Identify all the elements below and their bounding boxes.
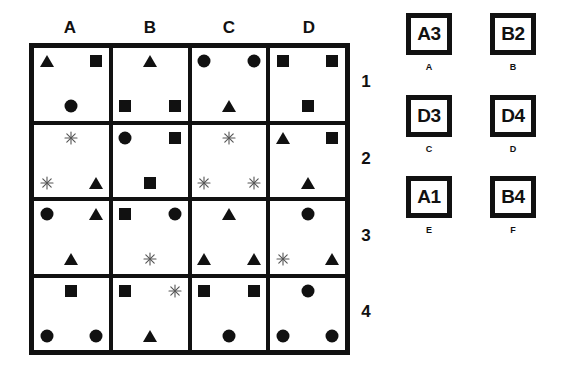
grid-cell-a1 xyxy=(34,48,109,121)
triangle-icon xyxy=(89,208,103,220)
triangle-icon xyxy=(222,208,236,220)
row-label-2: 2 xyxy=(356,149,376,169)
square-icon xyxy=(326,132,338,144)
option-letter: A xyxy=(398,62,460,72)
asterisk-icon xyxy=(168,284,182,298)
grid-cell-a4 xyxy=(34,278,109,351)
grid-cell-b1 xyxy=(113,48,188,121)
grid-cell-d4 xyxy=(270,278,345,351)
answer-option-a[interactable]: A3 A xyxy=(398,13,460,72)
square-icon xyxy=(119,208,131,220)
grid-cell-c4 xyxy=(192,278,267,351)
column-label-c: C xyxy=(209,18,249,38)
answer-option-b[interactable]: B2 B xyxy=(482,13,544,72)
circle-icon xyxy=(276,329,289,342)
asterisk-icon xyxy=(276,252,290,266)
asterisk-icon xyxy=(64,131,78,145)
grid-cell-c2 xyxy=(192,125,267,198)
column-label-d: D xyxy=(289,18,329,38)
grid-cell-a3 xyxy=(34,201,109,274)
puzzle-grid xyxy=(29,43,350,355)
option-code-box: B2 xyxy=(490,13,536,55)
row-label-3: 3 xyxy=(356,226,376,246)
triangle-icon xyxy=(64,253,78,265)
option-code-box: D4 xyxy=(490,95,536,137)
square-icon xyxy=(65,285,77,297)
triangle-icon xyxy=(325,253,339,265)
grid-cell-c1 xyxy=(192,48,267,121)
circle-icon xyxy=(40,329,53,342)
grid-cell-c3 xyxy=(192,201,267,274)
option-letter: B xyxy=(482,62,544,72)
column-label-a: A xyxy=(50,18,90,38)
circle-icon xyxy=(65,100,78,113)
grid-cell-b3 xyxy=(113,201,188,274)
row-label-1: 1 xyxy=(356,72,376,92)
grid-cell-d3 xyxy=(270,201,345,274)
grid-cell-b2 xyxy=(113,125,188,198)
square-icon xyxy=(302,100,314,112)
grid-cell-d2 xyxy=(270,125,345,198)
option-code-box: B4 xyxy=(490,176,536,218)
asterisk-icon xyxy=(222,131,236,145)
option-letter: E xyxy=(398,225,460,235)
square-icon xyxy=(169,100,181,112)
square-icon xyxy=(198,285,210,297)
square-icon xyxy=(119,285,131,297)
option-code-box: A1 xyxy=(406,176,452,218)
answer-option-c[interactable]: D3 C xyxy=(398,95,460,154)
answer-option-f[interactable]: B4 F xyxy=(482,176,544,235)
grid-cell-d1 xyxy=(270,48,345,121)
triangle-icon xyxy=(222,100,236,112)
square-icon xyxy=(144,177,156,189)
triangle-icon xyxy=(247,253,261,265)
square-icon xyxy=(90,55,102,67)
asterisk-icon xyxy=(40,176,54,190)
option-code-box: D3 xyxy=(406,95,452,137)
option-letter: C xyxy=(398,144,460,154)
grid-cell-b4 xyxy=(113,278,188,351)
square-icon xyxy=(248,285,260,297)
circle-icon xyxy=(301,284,314,297)
square-icon xyxy=(169,132,181,144)
option-letter: F xyxy=(482,225,544,235)
triangle-icon xyxy=(143,330,157,342)
triangle-icon xyxy=(143,55,157,67)
row-label-4: 4 xyxy=(356,302,376,322)
triangle-icon xyxy=(276,132,290,144)
answer-option-e[interactable]: A1 E xyxy=(398,176,460,235)
grid-cell-a2 xyxy=(34,125,109,198)
circle-icon xyxy=(247,55,260,68)
triangle-icon xyxy=(301,177,315,189)
option-code-box: A3 xyxy=(406,13,452,55)
circle-icon xyxy=(168,208,181,221)
circle-icon xyxy=(198,55,211,68)
triangle-icon xyxy=(89,177,103,189)
circle-icon xyxy=(326,329,339,342)
circle-icon xyxy=(222,329,235,342)
triangle-icon xyxy=(40,55,54,67)
option-letter: D xyxy=(482,144,544,154)
answer-option-d[interactable]: D4 D xyxy=(482,95,544,154)
asterisk-icon xyxy=(247,176,261,190)
circle-icon xyxy=(40,208,53,221)
circle-icon xyxy=(301,208,314,221)
circle-icon xyxy=(90,329,103,342)
asterisk-icon xyxy=(143,252,157,266)
asterisk-icon xyxy=(197,176,211,190)
column-label-b: B xyxy=(130,18,170,38)
square-icon xyxy=(326,55,338,67)
square-icon xyxy=(119,100,131,112)
circle-icon xyxy=(119,131,132,144)
square-icon xyxy=(277,55,289,67)
triangle-icon xyxy=(197,253,211,265)
